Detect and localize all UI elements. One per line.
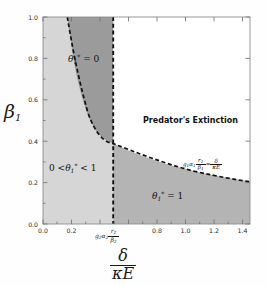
xtick-num-sub: 2 [114, 230, 117, 235]
x-tick-label-6: 1.4 [235, 227, 251, 234]
label-predator-extinction: Predator's Extinction [143, 116, 238, 125]
y-tick-label-5: 0.2 [16, 179, 38, 186]
x-tick-label-1: 0.0 [35, 227, 51, 234]
x-tick-label-2: 0.2 [64, 227, 80, 234]
theta-partial-lead: 0 < [49, 163, 65, 173]
x-axis-label: δ κE [110, 248, 136, 283]
xtick-frac-den: β2 [108, 236, 118, 245]
curve-eq-lhs-fraction: r1β1 [196, 158, 206, 172]
x-tick-label-4: 1.0 [178, 227, 194, 234]
y-axis-label-sub: 1 [15, 112, 21, 123]
theta-one-eq: = 1 [167, 191, 183, 201]
label-theta-one: θ1* = 1 [152, 190, 183, 202]
x-axis-fraction: δ κE [110, 248, 136, 283]
label-theta-partial: 0 <θ1* < 1 [49, 162, 96, 174]
curve-eq-rhs-fraction: δκE [210, 159, 222, 172]
curve-eq-rhs-den: κE [210, 164, 222, 171]
x-tick-formula-threshold: g2α2r2β2 [95, 228, 119, 244]
x-tick-label-3: 0.8 [149, 227, 165, 234]
xtick-fraction: r2β2 [108, 228, 118, 244]
curve-eq-num-sub: 1 [201, 159, 204, 164]
x-axis-den: κE [110, 265, 136, 283]
y-axis-label-beta: β [4, 100, 15, 122]
y-tick-label-4: 0.4 [16, 138, 38, 145]
y-tick-label-1: 1.0 [16, 14, 38, 21]
plot-canvas [0, 0, 267, 286]
theta-zero-star: * [77, 53, 80, 60]
label-curve-equation: g1α1r1β1=δκE [183, 158, 222, 172]
x-tick-label-5: 1.2 [206, 227, 222, 234]
theta-zero-eq: = 0 [83, 54, 99, 64]
phase-diagram-figure: 1.0 0.8 0.6 0.4 0.2 0.0 0.0 0.2 0.8 1.0 … [0, 0, 267, 286]
y-tick-label-2: 0.8 [16, 55, 38, 62]
theta-one-star: * [161, 190, 164, 197]
theta-partial-star: * [74, 162, 77, 169]
x-axis-num: δ [110, 248, 136, 265]
curve-eq-lhs-den: β1 [196, 164, 206, 171]
y-axis-label: β1 [4, 100, 21, 123]
label-theta-zero: θ1* = 0 [68, 53, 99, 65]
xtick-frac-num: r2 [108, 228, 118, 236]
theta-partial-tail: < 1 [80, 163, 96, 173]
xtick-den-sub: 2 [114, 239, 117, 244]
curve-eq-den-sub: 1 [201, 166, 204, 171]
